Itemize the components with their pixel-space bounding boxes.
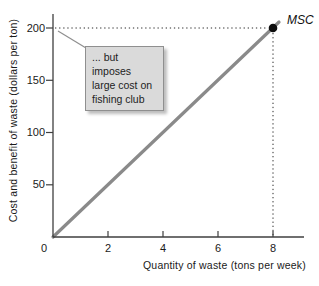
chart-figure: 200 150 100 50 0 2 4 6 8 Cost and benefi… bbox=[0, 0, 319, 286]
annotation-line-2: large cost on bbox=[92, 78, 158, 92]
y-axis-title: Cost and benefit of waste (dollars per t… bbox=[7, 8, 20, 234]
annotation-callout: ... but imposes large cost on fishing cl… bbox=[85, 46, 164, 111]
x-tick-label-6: 6 bbox=[207, 242, 229, 255]
x-tick-label-8: 8 bbox=[262, 242, 284, 255]
annotation-line-1: ... but imposes bbox=[92, 50, 158, 78]
annotation-line-3: fishing club bbox=[92, 92, 158, 106]
x-tick-label-4: 4 bbox=[152, 242, 174, 255]
x-tick-label-2: 2 bbox=[97, 242, 119, 255]
callout-pointer-line bbox=[58, 31, 86, 48]
y-tick-label-50: 50 bbox=[18, 178, 45, 191]
y-tick-label-100: 100 bbox=[18, 126, 45, 139]
msc-point-marker bbox=[269, 24, 278, 33]
x-tick-label-0: 0 bbox=[33, 242, 55, 255]
msc-series-label: MSC bbox=[287, 13, 314, 27]
y-tick-label-150: 150 bbox=[18, 74, 45, 87]
y-tick-label-200: 200 bbox=[18, 22, 45, 35]
x-axis-title: Quantity of waste (tons per week) bbox=[53, 259, 306, 271]
